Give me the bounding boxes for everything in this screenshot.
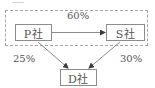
node-s-company: S社 bbox=[106, 24, 145, 41]
edge-label-p-to-s: 60% bbox=[67, 11, 89, 21]
edge-label-p-to-d: 25% bbox=[13, 54, 35, 64]
cropped-text-fragment bbox=[12, 0, 24, 3]
ownership-diagram: P社 S社 D社 60% 25% 30% bbox=[0, 0, 155, 88]
node-d-company: D社 bbox=[60, 69, 97, 86]
node-p-label: P社 bbox=[24, 25, 43, 41]
node-p-company: P社 bbox=[15, 24, 52, 41]
node-d-label: D社 bbox=[68, 70, 89, 86]
node-s-label: S社 bbox=[116, 25, 136, 41]
edge-label-s-to-d: 30% bbox=[120, 54, 142, 64]
